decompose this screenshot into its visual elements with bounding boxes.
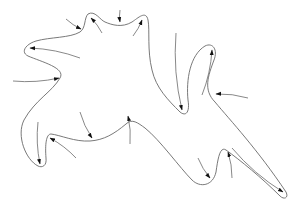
arrow-11-icon: [50, 138, 76, 158]
arrow-2-icon: [91, 18, 102, 33]
arrow-12-icon: [80, 112, 92, 138]
diagram-canvas: [0, 0, 299, 210]
arrow-15-icon: [228, 152, 232, 178]
arrow-16-icon: [232, 148, 283, 192]
arrow-13-icon: [128, 116, 130, 144]
arrow-8-icon: [202, 50, 212, 95]
arrow-9-icon: [216, 94, 248, 98]
arrow-10-icon: [37, 122, 40, 164]
arrow-4-icon: [133, 20, 142, 36]
blob-outline: [21, 13, 287, 198]
arrow-7-icon: [175, 33, 182, 110]
arrow-5-icon: [30, 48, 80, 58]
arrow-group: [13, 10, 283, 192]
arrow-14-icon: [198, 158, 210, 178]
arrow-6-icon: [13, 78, 59, 82]
arrow-1-icon: [66, 19, 81, 29]
